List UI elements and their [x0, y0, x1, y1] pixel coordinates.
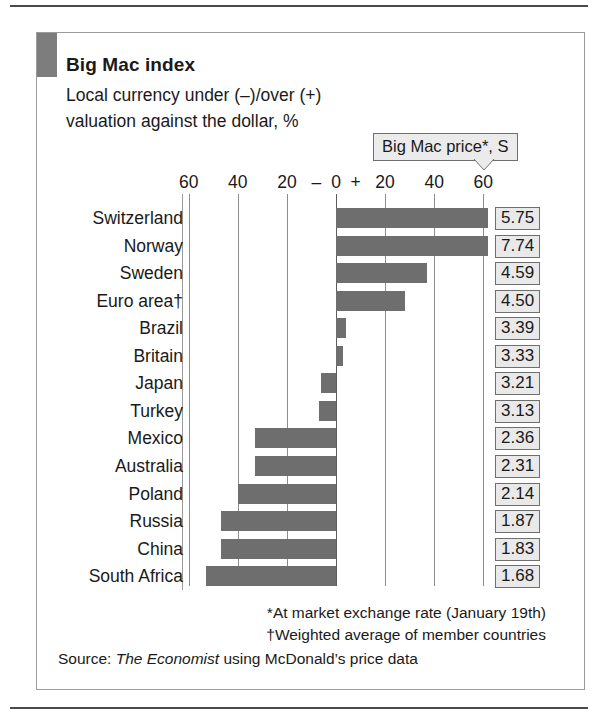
corner-accent-tab	[37, 33, 57, 77]
page-rule-bottom	[10, 707, 588, 709]
footnote-market-rate: *At market exchange rate (January 19th)	[267, 604, 546, 622]
callout-tail-icon	[473, 158, 495, 171]
page-title: Big Mac index	[66, 54, 195, 76]
subtitle-line-2: valuation against the dollar, %	[66, 108, 466, 134]
source-publication: The Economist	[116, 650, 219, 667]
page-rule-top	[10, 5, 588, 7]
chart-subtitle: Local currency under (–)/over (+) valuat…	[66, 82, 466, 134]
footnote-weighted-average: †Weighted average of member countries	[266, 626, 546, 644]
price-column-callout: Big Mac price*, S	[373, 133, 518, 161]
source-suffix: using McDonald’s price data	[219, 650, 418, 667]
subtitle-line-1: Local currency under (–)/over (+)	[66, 82, 466, 108]
source-line: Source: The Economist using McDonald’s p…	[58, 650, 418, 668]
source-prefix: Source:	[58, 650, 116, 667]
